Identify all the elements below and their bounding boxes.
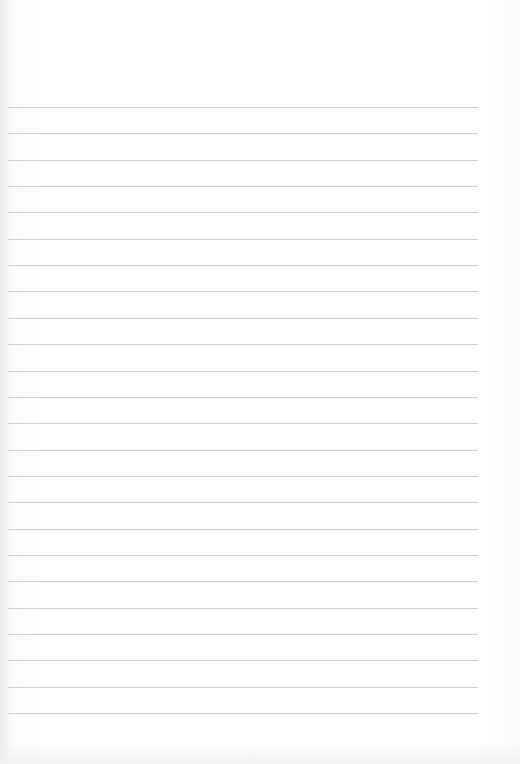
ruled-line bbox=[8, 212, 478, 213]
ruled-line bbox=[8, 555, 478, 556]
ruled-line bbox=[8, 581, 478, 582]
ruled-line bbox=[8, 318, 478, 319]
ruled-line bbox=[8, 186, 478, 187]
lined-paper-sheet bbox=[0, 0, 520, 764]
ruled-line bbox=[8, 450, 478, 451]
ruled-line bbox=[8, 107, 478, 108]
ruled-line bbox=[8, 529, 478, 530]
ruled-line bbox=[8, 397, 478, 398]
ruled-line bbox=[8, 265, 478, 266]
ruled-line bbox=[8, 423, 478, 424]
ruled-line bbox=[8, 660, 478, 661]
ruled-line bbox=[8, 502, 478, 503]
ruled-line bbox=[8, 687, 478, 688]
ruled-line bbox=[8, 608, 478, 609]
ruled-line bbox=[8, 713, 478, 714]
ruled-line bbox=[8, 634, 478, 635]
ruled-line bbox=[8, 133, 478, 134]
ruled-line bbox=[8, 476, 478, 477]
ruled-line bbox=[8, 371, 478, 372]
ruled-line bbox=[8, 344, 478, 345]
ruled-line bbox=[8, 291, 478, 292]
ruled-line bbox=[8, 239, 478, 240]
ruled-line bbox=[8, 160, 478, 161]
